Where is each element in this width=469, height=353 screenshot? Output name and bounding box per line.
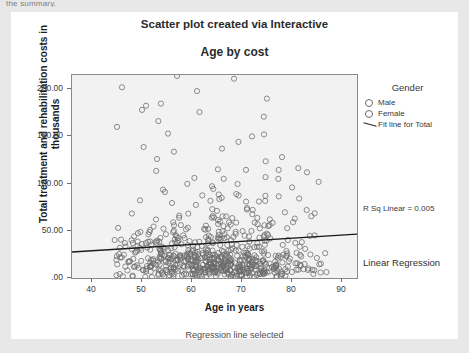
legend-item-label: Fit line for Total: [378, 120, 432, 129]
x-tick-label: 40: [71, 284, 111, 294]
scatter-point: [119, 85, 124, 90]
scatter-point: [263, 198, 268, 203]
scatter-point: [139, 107, 144, 112]
scatter-point: [174, 75, 179, 79]
scatter-canvas: [72, 75, 357, 278]
scatter-point: [163, 232, 168, 237]
scatter-point: [186, 211, 191, 216]
x-tick-mark: [291, 278, 292, 282]
scatter-point: [114, 124, 119, 129]
scatter-point: [230, 216, 235, 221]
x-tick-mark: [191, 278, 192, 282]
scatter-point: [165, 131, 170, 136]
x-tick-label: 70: [221, 284, 261, 294]
x-axis-label: Age in years: [11, 302, 458, 313]
scatter-point: [151, 224, 156, 229]
scatter-point: [308, 252, 313, 257]
scatter-point: [256, 199, 261, 204]
scatter-point: [235, 253, 240, 258]
chart-card: Scatter plot created via Interactive Age…: [11, 12, 458, 339]
scatter-point: [316, 179, 321, 184]
circle-marker: [365, 99, 373, 107]
legend-item[interactable]: Fit line for Total: [363, 119, 458, 130]
y-axis-label: Total treatment and rehabilitation costs…: [38, 24, 62, 224]
circle-outline-icon: [363, 97, 378, 108]
scatter-point: [224, 214, 229, 219]
scatter-point: [161, 226, 166, 231]
scatter-point: [296, 166, 301, 171]
scatter-point: [193, 202, 198, 207]
model-label: Linear Regression: [363, 257, 463, 268]
scatter-point: [221, 176, 226, 181]
scatter-point: [208, 198, 213, 203]
circle-marker: [365, 110, 373, 118]
x-tick-label: 60: [171, 284, 211, 294]
scatter-point: [303, 246, 308, 251]
scatter-point: [276, 194, 281, 199]
scatter-point: [235, 181, 240, 186]
x-tick-mark: [341, 278, 342, 282]
scatter-point: [192, 175, 197, 180]
scatter-point: [323, 251, 328, 256]
y-axis-label-text: Total treatment and rehabilitation costs…: [38, 25, 61, 223]
line-segment-icon: [363, 119, 378, 130]
clipped-page-text: the summary.: [6, 0, 56, 7]
scatter-point: [137, 198, 142, 203]
x-tick-label: 90: [321, 284, 361, 294]
scatter-point: [178, 223, 183, 228]
y-tick-label: 50.00: [11, 225, 63, 235]
circle-outline-icon: [363, 108, 378, 119]
scatter-point: [231, 76, 236, 81]
scatter-point: [221, 224, 226, 229]
scatter-point: [264, 96, 269, 101]
scatter-point: [114, 273, 119, 278]
scatter-point: [289, 269, 294, 274]
scatter-point: [280, 242, 285, 247]
scatter-point: [219, 146, 224, 151]
x-tick-label: 50: [121, 284, 161, 294]
scatter-point: [280, 260, 285, 265]
legend-title: Gender: [363, 82, 458, 93]
scatter-point: [290, 185, 295, 190]
scatter-point: [169, 200, 174, 205]
scatter-point: [244, 199, 249, 204]
x-tick-mark: [241, 278, 242, 282]
screenshot-root: the summary. Scatter plot created via In…: [0, 0, 469, 353]
scatter-point: [143, 274, 148, 278]
y-tick-label: .00: [11, 272, 63, 282]
scatter-point: [200, 193, 205, 198]
scatter-point: [243, 167, 248, 172]
scatter-point: [255, 215, 260, 220]
x-tick-mark: [91, 278, 92, 282]
scatter-point: [263, 175, 268, 180]
scatter-point: [154, 168, 159, 173]
scatter-point: [139, 258, 144, 263]
scatter-point: [261, 132, 266, 137]
scatter-point: [249, 228, 254, 233]
legend: Gender MaleFemaleFit line for Total: [363, 82, 458, 130]
legend-item-label: Female: [378, 109, 405, 118]
scatter-point: [118, 237, 123, 242]
scatter-point: [279, 155, 284, 160]
scatter-point: [312, 211, 317, 216]
scatter-point: [297, 196, 302, 201]
scatter-point: [234, 242, 239, 247]
legend-item[interactable]: Male: [363, 97, 458, 108]
scatter-point: [149, 275, 154, 279]
scatter-point: [262, 223, 267, 228]
scatter-point: [236, 139, 241, 144]
scatter-point: [314, 255, 319, 260]
scatter-point: [154, 156, 159, 161]
scatter-point: [210, 207, 215, 212]
scatter-point: [153, 217, 158, 222]
chart-supertitle: Scatter plot created via Interactive: [11, 18, 458, 30]
scatter-point: [129, 211, 134, 216]
scatter-point: [263, 159, 268, 164]
y-tick-label: 150.00: [11, 130, 63, 140]
legend-item[interactable]: Female: [363, 108, 458, 119]
legend-items: MaleFemaleFit line for Total: [363, 97, 458, 130]
scatter-point: [261, 114, 266, 119]
scatter-point: [112, 237, 117, 242]
x-tick-label: 80: [271, 284, 311, 294]
scatter-point: [158, 101, 163, 106]
